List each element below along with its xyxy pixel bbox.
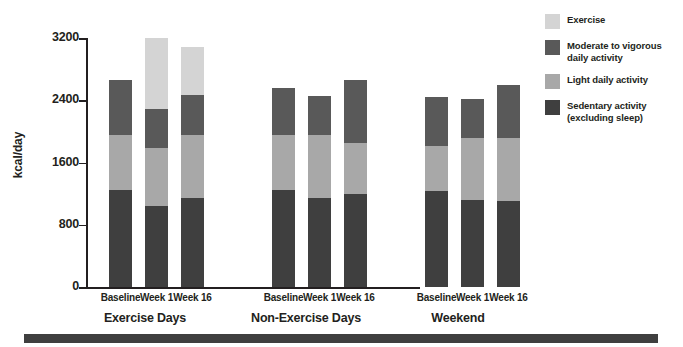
segment-sedentary (308, 198, 331, 287)
segment-moderate-vigorous (425, 97, 448, 146)
y-tick-label: 800 (39, 218, 79, 231)
segment-moderate-vigorous (109, 80, 132, 135)
segment-sedentary (272, 190, 295, 287)
y-tick-label: 0 (39, 280, 79, 293)
legend-label: Moderate to vigorous daily activity (567, 40, 662, 63)
segment-moderate-vigorous (497, 85, 520, 138)
bar-exercise-days-week-16 (181, 47, 204, 287)
y-tick-0: 0 (28, 287, 79, 288)
legend-swatch-icon (545, 40, 560, 55)
segment-light (461, 138, 484, 200)
bottom-rule (24, 334, 658, 343)
bar-exercise-days-week-1 (145, 38, 168, 287)
bar-weekend-baseline (425, 97, 448, 287)
y-tick-mark (79, 225, 87, 227)
bar-non-exercise-days-week-16 (344, 80, 367, 287)
bar-non-exercise-days-week-1 (308, 96, 331, 287)
bar-exercise-days-baseline (109, 80, 132, 287)
segment-exercise (181, 47, 204, 95)
chart-legend: ExerciseModerate to vigorous daily activ… (545, 14, 683, 134)
chart-figure: kcal/day 3200240016008000 BaselineWeek 1… (0, 0, 683, 347)
y-tick-2400: 2400 (28, 100, 79, 101)
x-group-label: Exercise Days (65, 311, 225, 325)
y-tick-1600: 1600 (28, 163, 79, 164)
x-category-label: Week 16 (480, 292, 538, 303)
segment-sedentary (109, 190, 132, 287)
x-group-label: Weekend (378, 311, 538, 325)
y-tick-mark (79, 287, 87, 289)
segment-light (109, 135, 132, 189)
segment-sedentary (181, 198, 204, 287)
segment-sedentary (461, 200, 484, 287)
x-axis-line (86, 287, 420, 289)
y-tick-label: 3200 (39, 31, 79, 44)
y-tick-800: 800 (28, 225, 79, 226)
legend-swatch-icon (545, 74, 560, 89)
y-tick-mark (79, 163, 87, 165)
segment-moderate-vigorous (181, 95, 204, 135)
legend-moderate-vigorous: Moderate to vigorous daily activity (545, 40, 683, 63)
legend-label: Light daily activity (567, 74, 648, 86)
segment-moderate-vigorous (308, 96, 331, 135)
legend-swatch-icon (545, 100, 560, 115)
y-axis-title: kcal/day (11, 115, 25, 195)
segment-light (145, 148, 168, 206)
segment-light (497, 138, 520, 202)
segment-light (181, 135, 204, 197)
segment-moderate-vigorous (272, 88, 295, 135)
y-tick-label: 2400 (39, 93, 79, 106)
segment-light (344, 143, 367, 194)
segment-moderate-vigorous (145, 109, 168, 148)
y-tick-3200: 3200 (28, 38, 79, 39)
legend-sedentary: Sedentary activity (excluding sleep) (545, 100, 683, 123)
bar-weekend-week-16 (497, 85, 520, 287)
segment-moderate-vigorous (344, 80, 367, 143)
legend-light-daily: Light daily activity (545, 74, 683, 89)
segment-light (272, 135, 295, 189)
x-category-label: Week 16 (164, 292, 222, 303)
y-tick-label: 1600 (39, 156, 79, 169)
segment-sedentary (145, 206, 168, 287)
bar-weekend-week-1 (461, 99, 484, 287)
legend-exercise: Exercise (545, 14, 683, 29)
x-category-label: Week 16 (327, 292, 385, 303)
segment-sedentary (497, 201, 520, 287)
y-tick-mark (79, 100, 87, 102)
x-group-label: Non-Exercise Days (226, 311, 386, 325)
legend-label: Sedentary activity (excluding sleep) (567, 100, 647, 123)
segment-sedentary (425, 191, 448, 287)
y-tick-mark (79, 38, 87, 40)
legend-swatch-icon (545, 14, 560, 29)
segment-sedentary (344, 194, 367, 287)
segment-light (308, 135, 331, 197)
segment-exercise (145, 38, 168, 109)
legend-label: Exercise (567, 14, 605, 26)
bar-non-exercise-days-baseline (272, 88, 295, 287)
segment-light (425, 146, 448, 191)
segment-moderate-vigorous (461, 99, 484, 138)
